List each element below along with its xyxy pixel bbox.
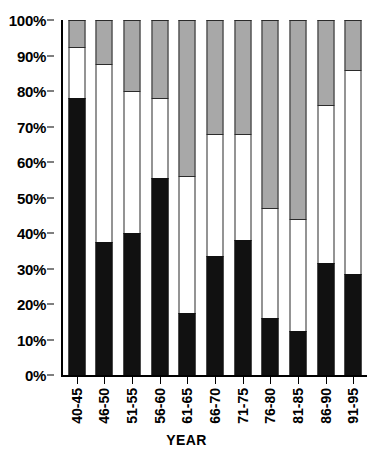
y-axis-tick-mark — [47, 91, 54, 92]
bar-segment-black — [234, 240, 251, 375]
bar-segment-white — [289, 219, 306, 331]
stacked-bar[interactable] — [289, 20, 306, 375]
y-axis-tick-label: 70% — [17, 118, 46, 135]
bar-segment-white — [151, 98, 168, 178]
bar-segment-gray — [68, 20, 85, 47]
bar-segment-black — [262, 318, 279, 375]
x-axis-tick-label: 86-90 — [318, 388, 334, 424]
y-axis-tick-mark — [47, 339, 54, 340]
bar-segment-gray — [317, 20, 334, 105]
x-axis-tick-mark — [270, 377, 271, 384]
bar-group — [91, 20, 119, 375]
bar-segment-white — [206, 134, 223, 256]
x-axis-tick-mark — [326, 377, 327, 384]
x-axis-tick-mark — [160, 377, 161, 384]
x-axis-tick-mark — [298, 377, 299, 384]
x-axis-tick-label: 61-65 — [179, 388, 195, 424]
y-axis-tick-label: 10% — [17, 331, 46, 348]
x-axis-tick-mark — [353, 377, 354, 384]
bar-segment-black — [179, 313, 196, 375]
bar-segment-gray — [262, 20, 279, 208]
bar-segment-black — [124, 233, 141, 375]
plot-area — [63, 20, 367, 375]
y-axis: 0%10%20%30%40%50%60%70%80%90%100% — [0, 0, 58, 457]
stacked-bar[interactable] — [234, 20, 251, 375]
x-axis-tick-label: 76-80 — [262, 388, 278, 424]
bar-segment-white — [317, 105, 334, 263]
stacked-bar[interactable] — [345, 20, 362, 375]
x-axis-tick-mark — [243, 377, 244, 384]
bar-segment-black — [317, 263, 334, 375]
bar-segment-white — [179, 176, 196, 313]
stacked-bar[interactable] — [317, 20, 334, 375]
y-axis-tick-mark — [47, 375, 54, 376]
x-axis-tick-mark — [77, 377, 78, 384]
bar-segment-black — [206, 256, 223, 375]
y-axis-tick-label: 100% — [9, 12, 46, 29]
y-axis-tick-label: 50% — [17, 189, 46, 206]
bar-segment-gray — [206, 20, 223, 134]
bar-group — [63, 20, 91, 375]
x-axis-tick-label: 56-60 — [152, 388, 168, 424]
y-axis-tick-mark — [47, 162, 54, 163]
y-axis-tick-label: 40% — [17, 225, 46, 242]
x-axis-tick-mark — [132, 377, 133, 384]
y-axis-tick-label: 30% — [17, 260, 46, 277]
bar-segment-white — [262, 208, 279, 318]
bar-group — [229, 20, 257, 375]
stacked-bar[interactable] — [124, 20, 141, 375]
bar-group — [118, 20, 146, 375]
y-axis-tick-mark — [47, 197, 54, 198]
x-axis-tick-label: 46-50 — [96, 388, 112, 424]
bar-segment-black — [289, 331, 306, 375]
stacked-bar[interactable] — [151, 20, 168, 375]
bar-group — [201, 20, 229, 375]
y-axis-tick-mark — [47, 55, 54, 56]
bar-group — [339, 20, 367, 375]
bar-segment-gray — [289, 20, 306, 219]
y-axis-tick-mark — [47, 126, 54, 127]
bar-group — [146, 20, 174, 375]
bar-segment-black — [96, 242, 113, 375]
bar-group — [284, 20, 312, 375]
y-axis-tick-label: 80% — [17, 83, 46, 100]
bar-group — [312, 20, 340, 375]
x-axis-tick-label: 66-70 — [207, 388, 223, 424]
bar-segment-white — [124, 91, 141, 233]
stacked-bar[interactable] — [96, 20, 113, 375]
y-axis-tick-label: 90% — [17, 47, 46, 64]
stacked-bar[interactable] — [262, 20, 279, 375]
bar-segment-white — [345, 70, 362, 274]
x-axis-line — [61, 375, 367, 377]
bar-segment-gray — [151, 20, 168, 98]
bar-group — [256, 20, 284, 375]
y-axis-tick-label: 0% — [25, 367, 46, 384]
stacked-bar[interactable] — [179, 20, 196, 375]
bar-group — [174, 20, 202, 375]
bar-segment-black — [68, 98, 85, 375]
y-axis-tick-label: 60% — [17, 154, 46, 171]
x-axis-tick-label: 81-85 — [290, 388, 306, 424]
stacked-bar[interactable] — [68, 20, 85, 375]
stacked-bar-chart: 0%10%20%30%40%50%60%70%80%90%100% 40-454… — [0, 0, 373, 457]
x-axis-tick-mark — [215, 377, 216, 384]
bar-segment-gray — [179, 20, 196, 176]
bar-segment-gray — [345, 20, 362, 70]
y-axis-tick-mark — [47, 233, 54, 234]
bar-segment-white — [96, 64, 113, 242]
y-axis-tick-mark — [47, 20, 54, 21]
bar-segment-gray — [234, 20, 251, 134]
x-axis-tick-mark — [187, 377, 188, 384]
stacked-bar[interactable] — [206, 20, 223, 375]
x-axis-tick-label: 51-55 — [124, 388, 140, 424]
y-axis-tick-mark — [47, 268, 54, 269]
x-axis-title: YEAR — [0, 432, 373, 448]
bar-segment-white — [234, 134, 251, 241]
bar-segment-black — [151, 178, 168, 375]
bar-segment-white — [68, 47, 85, 98]
x-axis-tick-label: 40-45 — [69, 388, 85, 424]
x-axis-tick-label: 71-75 — [235, 388, 251, 424]
y-axis-tick-mark — [47, 304, 54, 305]
bar-segment-black — [345, 274, 362, 375]
x-axis-tick-mark — [104, 377, 105, 384]
